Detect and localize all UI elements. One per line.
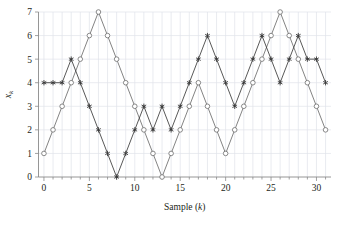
y-tick-label: 7	[27, 7, 32, 17]
y-tick-label: 5	[27, 55, 32, 65]
data-point-circle	[205, 104, 210, 109]
data-point-circle	[169, 151, 174, 156]
data-point-circle	[132, 104, 137, 109]
data-point-circle	[251, 80, 256, 85]
data-point-circle	[187, 104, 192, 109]
data-point-circle	[223, 151, 228, 156]
data-point-circle	[51, 128, 56, 133]
data-point-circle	[296, 57, 301, 62]
data-point-circle	[160, 175, 165, 180]
data-point-circle	[142, 128, 147, 133]
data-point-circle	[42, 151, 47, 156]
data-point-circle	[305, 80, 310, 85]
x-axis-title: Sample (k)	[164, 202, 205, 213]
data-point-circle	[314, 104, 319, 109]
x-tick-label: 10	[130, 183, 140, 193]
x-tick-label: 5	[87, 183, 92, 193]
data-point-circle	[123, 80, 128, 85]
chart-figure: 05101520253001234567 Sample (k) xk	[0, 0, 351, 232]
y-tick-label: 1	[27, 149, 32, 159]
data-point-circle	[214, 128, 219, 133]
data-point-circle	[151, 151, 156, 156]
data-point-circle	[78, 57, 83, 62]
data-point-circle	[278, 10, 283, 15]
data-point-circle	[87, 33, 92, 38]
x-tick-label: 0	[42, 183, 47, 193]
data-point-circle	[96, 10, 101, 15]
data-point-circle	[105, 33, 110, 38]
data-point-circle	[269, 33, 274, 38]
x-tick-label: 15	[175, 183, 185, 193]
data-point-circle	[287, 33, 292, 38]
y-tick-label: 4	[27, 78, 32, 88]
data-point-circle	[69, 80, 74, 85]
chart-canvas: 05101520253001234567 Sample (k) xk	[0, 0, 351, 232]
y-tick-label: 6	[27, 31, 32, 41]
data-point-circle	[114, 57, 119, 62]
data-point-circle	[178, 128, 183, 133]
data-point-circle	[323, 128, 328, 133]
data-point-circle	[242, 104, 247, 109]
x-tick-label: 30	[312, 183, 322, 193]
data-point-circle	[260, 57, 265, 62]
data-point-circle	[232, 128, 237, 133]
y-tick-label: 3	[27, 102, 32, 112]
y-tick-label: 0	[27, 172, 32, 182]
x-tick-label: 20	[221, 183, 231, 193]
y-tick-label: 2	[27, 125, 32, 135]
x-tick-label: 25	[266, 183, 276, 193]
data-point-circle	[60, 104, 65, 109]
data-point-circle	[196, 80, 201, 85]
